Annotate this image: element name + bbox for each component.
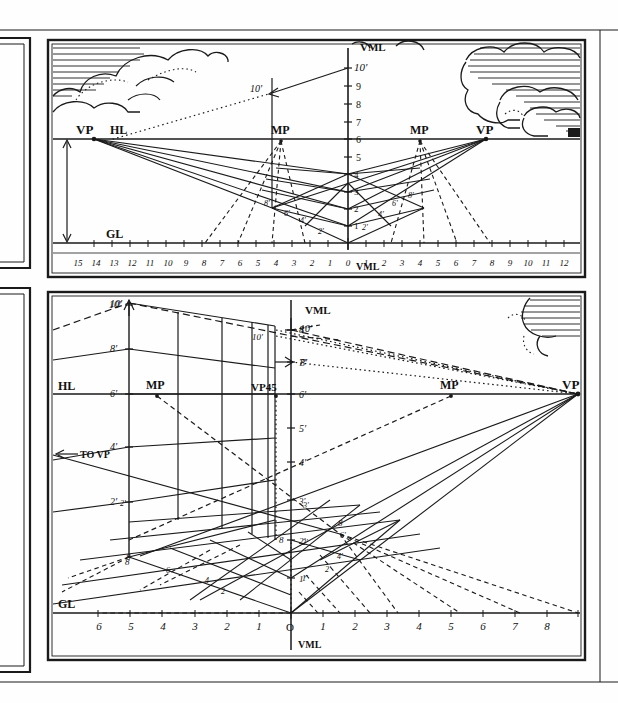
scale-label-left-15: 15 <box>74 258 84 268</box>
vml-label-5-upper: 5 <box>356 152 361 163</box>
scale-label-left-11: 11 <box>146 258 154 268</box>
grid-label-2-center-lower: 2 <box>221 587 225 596</box>
vml-label-9-upper: 9 <box>356 81 361 92</box>
height-arrows-lower <box>124 300 297 367</box>
label-vml-top-upper: VML <box>360 41 386 53</box>
scale-label-right-5: 5 <box>448 620 454 632</box>
scale-label-left-9: 9 <box>184 258 189 268</box>
vml-label-6-lower: 6' <box>299 389 307 400</box>
box-vertical-lines-lower <box>178 312 275 540</box>
grid-label-4-near-lower: 4' <box>337 552 343 561</box>
upper-plate: VP HL VP MP MP GL VML VML 10' 10' 9 8 7 … <box>48 40 585 277</box>
scale-label-right-5: 5 <box>436 258 441 268</box>
grid-label-8-center-lower: 8 <box>126 552 131 562</box>
scale-label-left-1: 1 <box>256 620 262 632</box>
label-height-10-right-lower: 10' <box>252 332 264 342</box>
grid-label-8prime-right-upper: 8' <box>408 191 414 200</box>
grid-label-6prime-right-upper: 6' <box>392 199 398 208</box>
label-mp-left-upper: MP <box>271 123 290 137</box>
scale-label-left-10: 10 <box>164 258 174 268</box>
label-vml-top-lower: VML <box>305 304 331 316</box>
eye-height-dimension-arrow <box>63 140 71 242</box>
scale-label-origin: 0 <box>346 258 351 268</box>
vml-base-mark-lower: 8 <box>279 535 284 545</box>
label-gl-upper: GL <box>106 227 123 241</box>
vml-label-4-upper: 4 <box>354 170 359 180</box>
scale-label-right-10: 10 <box>524 258 534 268</box>
vml-label-7-upper: 7 <box>356 117 361 128</box>
scale-label-left-4: 4 <box>160 620 166 632</box>
grid-label-3prime-right-lower: 3' <box>302 501 309 510</box>
left-scale-label-6-lower: 6' <box>110 388 118 399</box>
scale-label-right-9: 9 <box>508 258 513 268</box>
vml-label-2-upper: 2 <box>354 204 359 214</box>
left-scale-label-10-lower: 10' <box>109 299 122 310</box>
scale-label-right-6: 6 <box>480 620 486 632</box>
grid-label-8prime-left-upper: 8' <box>264 199 270 208</box>
vml-label-7-lower: 7' <box>299 357 307 368</box>
grid-label-2prime-right-lower: 2' <box>302 538 308 547</box>
lower-left-partial-frame <box>0 288 30 672</box>
vml-origin-lower: O <box>286 621 294 633</box>
ground-scale-labels-upper: 1514131211109876543210123456789101112 <box>74 258 570 268</box>
scale-label-right-7: 7 <box>512 620 518 632</box>
left-scale-label-8-lower: 8' <box>110 343 118 354</box>
scale-label-left-13: 13 <box>110 258 120 268</box>
box-edges-lower <box>53 303 340 557</box>
label-gl-lower: GL <box>58 597 75 611</box>
scale-label-right-11: 11 <box>542 258 550 268</box>
cloud-shapes <box>53 41 580 136</box>
scale-label-left-2: 2 <box>224 620 230 632</box>
scale-label-left-3: 3 <box>191 620 198 632</box>
grid-label-8-near-lower: 8 <box>338 518 343 528</box>
grid-label-4-center-lower: 4 <box>205 576 209 585</box>
drawing-sheet: VP HL VP MP MP GL VML VML 10' 10' 9 8 7 … <box>0 0 618 703</box>
vml-label-4-lower: 4' <box>299 457 307 468</box>
upper-left-partial-frame <box>0 38 30 268</box>
grid-label-6-center-lower: 6 <box>166 566 170 575</box>
grid-label-4prime-right-upper: 4' <box>378 210 384 219</box>
grid-label-4prime-left-upper: 4' <box>300 216 306 225</box>
grid-label-2prime-right-upper: 2' <box>362 223 368 232</box>
label-mp-right-lower: MP <box>440 378 459 392</box>
scale-label-left-5: 5 <box>128 620 134 632</box>
scale-label-right-1: 1 <box>364 258 369 268</box>
scale-label-left-2: 2 <box>310 258 315 268</box>
label-vml-bottom-lower: VML <box>298 639 322 650</box>
vml-label-1-upper: 1 <box>354 221 359 231</box>
grid-label-1prime-right-lower: 1' <box>302 574 308 583</box>
dotted-45-lines-lower <box>276 330 578 613</box>
scale-label-left-6: 6 <box>96 620 102 632</box>
label-vp45-lower: VP45 <box>251 381 277 393</box>
label-vp-left-upper: VP <box>76 122 93 137</box>
label-mp-right-upper: MP <box>410 123 429 137</box>
scale-label-right-3: 3 <box>399 258 405 268</box>
scale-label-left-5: 5 <box>256 258 261 268</box>
cloud-wisp <box>76 69 523 116</box>
label-vp-right-upper: VP <box>476 122 493 137</box>
scale-label-left-8: 8 <box>202 258 207 268</box>
grid-label-2prime-left-upper: 2' <box>318 227 324 236</box>
scale-label-right-4: 4 <box>418 258 423 268</box>
vml-label-3-upper: 3 <box>354 187 359 197</box>
scale-label-left-4: 4 <box>274 258 279 268</box>
lower-plate: HL GL VP VP45 MP MP TO VP VML VML 10' 10… <box>48 292 585 660</box>
vml-label-5-lower: 5' <box>299 423 307 434</box>
scale-label-right-2: 2 <box>352 620 358 632</box>
label-vp-right-lower: VP <box>562 377 579 392</box>
ground-scale-labels-lower: 65432112345678 <box>96 620 550 632</box>
vml-label-6-upper: 6 <box>356 134 361 145</box>
perspective-drawing-svg: VP HL VP MP MP GL VML VML 10' 10' 9 8 7 … <box>0 0 618 703</box>
left-scale-label-2-lower: 2' <box>110 496 118 507</box>
scale-label-right-1: 1 <box>320 620 326 632</box>
scale-label-left-14: 14 <box>92 258 102 268</box>
measuring-point-dotted-line-upper <box>110 93 272 140</box>
scale-label-left-7: 7 <box>220 258 225 268</box>
scale-label-right-6: 6 <box>454 258 459 268</box>
scale-label-right-8: 8 <box>544 620 550 632</box>
height-transfer-line-upper <box>269 68 348 97</box>
scale-label-right-8: 8 <box>490 258 495 268</box>
vml-label-8-lower: 8' <box>299 324 307 335</box>
grid-label-6prime-left-upper: 6' <box>284 209 290 218</box>
cloud-arc <box>128 77 174 100</box>
